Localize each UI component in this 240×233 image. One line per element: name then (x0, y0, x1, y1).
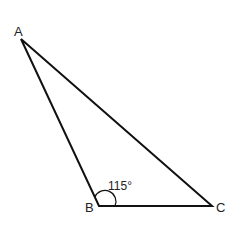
angle-label-b: 115° (108, 179, 132, 193)
triangle-diagram: A B C 115° (0, 0, 240, 233)
vertex-label-b: B (85, 200, 94, 215)
triangle-figure: A B C 115° (0, 0, 240, 233)
vertex-label-a: A (14, 24, 23, 39)
vertex-label-c: C (216, 200, 225, 215)
